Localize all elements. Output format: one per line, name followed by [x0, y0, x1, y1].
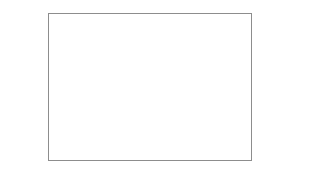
plot-frame: [49, 14, 252, 161]
stats-panel: [261, 12, 327, 30]
probability-plot: [0, 0, 329, 193]
panel-spacer: [261, 20, 327, 25]
